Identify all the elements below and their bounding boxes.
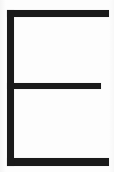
letter-e-vertical-stem — [7, 10, 14, 166]
letter-e-middle-arm — [7, 83, 101, 89]
glyph-canvas: E — [0, 0, 114, 172]
letter-e-bottom-arm — [7, 158, 109, 166]
letter-e-top-arm — [7, 10, 109, 17]
